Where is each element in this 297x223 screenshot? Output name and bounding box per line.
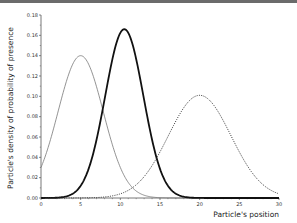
chart-plot: 0.000.020.040.060.080.100.120.140.160.18… <box>0 0 297 223</box>
x-tick-label: 5 <box>79 201 82 207</box>
y-tick-label: 0.06 <box>27 134 38 140</box>
y-tick-label: 0.16 <box>27 32 38 38</box>
y-tick-label: 0.08 <box>27 113 38 119</box>
x-tick-label: 25 <box>236 201 242 207</box>
axes: 0.000.020.040.060.080.100.120.140.160.18… <box>27 12 282 207</box>
y-tick-label: 0.00 <box>27 195 38 201</box>
x-tick-label: 10 <box>117 201 123 207</box>
x-tick-label: 15 <box>157 201 163 207</box>
y-tick-label: 0.04 <box>27 154 38 160</box>
x-axis-label: Particle's position <box>213 210 279 219</box>
x-tick-label: 0 <box>39 201 42 207</box>
y-tick-label: 0.02 <box>27 174 38 180</box>
y-tick-label: 0.10 <box>27 93 38 99</box>
x-tick-label: 20 <box>196 201 202 207</box>
curve-gaussian-dotted <box>41 95 279 198</box>
y-tick-label: 0.14 <box>27 52 38 58</box>
curve-gaussian-thick-black <box>41 29 279 198</box>
y-tick-label: 0.18 <box>27 12 38 18</box>
curve-gaussian-thin-grey <box>41 56 279 198</box>
curves <box>41 29 279 198</box>
x-tick-label: 30 <box>276 201 282 207</box>
y-axis-label: Particle's density of probability of pre… <box>6 27 15 189</box>
y-tick-label: 0.12 <box>27 73 38 79</box>
